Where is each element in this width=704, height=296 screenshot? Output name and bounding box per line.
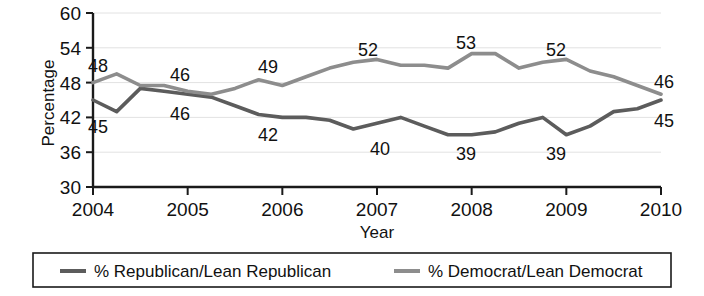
x-tick-label: 2009 [545, 199, 587, 220]
y-tick-label: 30 [60, 177, 81, 198]
data-label: 45 [88, 117, 108, 137]
x-axis: 2004200520062007200820092010 [72, 187, 682, 220]
data-point-labels: 4845464649425240533952394645 [88, 33, 674, 164]
x-tick-label: 2008 [451, 199, 493, 220]
x-tick-label: 2004 [72, 199, 115, 220]
x-tick-label: 2006 [261, 199, 303, 220]
x-tick-label: 2010 [640, 199, 682, 220]
data-label: 53 [456, 33, 476, 53]
data-label: 46 [170, 104, 190, 124]
y-tick-label: 60 [60, 3, 81, 24]
x-tick-label: 2007 [356, 199, 398, 220]
legend: % Republican/Lean Republican% Democrat/L… [33, 253, 671, 287]
data-label: 48 [88, 56, 108, 76]
data-label: 45 [654, 111, 674, 131]
data-label: 52 [358, 40, 378, 60]
legend-label-democrat: % Democrat/Lean Democrat [428, 262, 643, 281]
data-label: 39 [546, 144, 566, 164]
data-label: 39 [456, 144, 476, 164]
data-label: 52 [546, 40, 566, 60]
data-label: 40 [370, 139, 390, 159]
x-tick-label: 2005 [167, 199, 209, 220]
data-label: 42 [258, 125, 278, 145]
y-axis-title: Percentage [39, 60, 58, 147]
y-tick-label: 42 [60, 107, 81, 128]
data-label: 46 [170, 65, 190, 85]
y-axis: 303642485460 [60, 3, 93, 198]
y-tick-label: 54 [60, 38, 82, 59]
data-label: 49 [258, 57, 278, 77]
line-chart: 303642485460 200420052006200720082009201… [0, 0, 704, 296]
y-tick-label: 48 [60, 73, 81, 94]
legend-label-republican: % Republican/Lean Republican [94, 262, 331, 281]
x-axis-title: Year [360, 223, 395, 242]
data-label: 46 [654, 72, 674, 92]
chart-canvas: 303642485460 200420052006200720082009201… [0, 0, 704, 296]
y-tick-label: 36 [60, 142, 81, 163]
